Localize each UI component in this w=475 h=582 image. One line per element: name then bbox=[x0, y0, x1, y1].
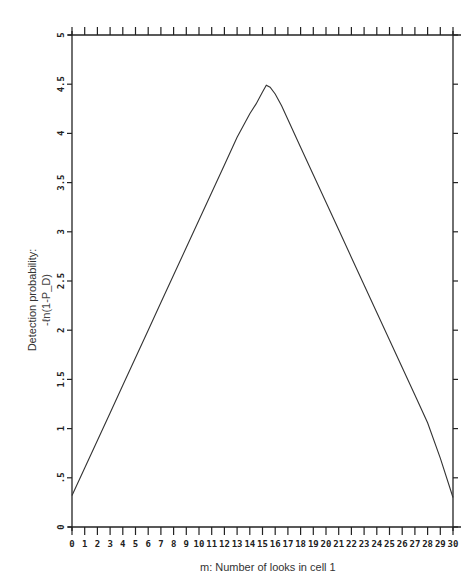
x-tick-label: 4 bbox=[120, 539, 126, 549]
y-tick-label: 3.5 bbox=[56, 174, 66, 190]
x-tick-label: 18 bbox=[295, 539, 306, 549]
y-tick-label: 1 bbox=[56, 426, 66, 431]
x-tick-label: 26 bbox=[397, 539, 408, 549]
y-axis-title: Detection probability: -ℓn(1-P_D) bbox=[26, 249, 52, 352]
x-tick-label: 29 bbox=[435, 539, 446, 549]
x-tick-label: 7 bbox=[158, 539, 163, 549]
x-tick-label: 24 bbox=[371, 539, 382, 549]
x-tick-label: 9 bbox=[184, 539, 189, 549]
y-tick-label: 3 bbox=[56, 229, 66, 234]
line-chart: 0.511.522.533.544.55 0123456789101112131… bbox=[0, 0, 475, 582]
x-tick-label: 13 bbox=[232, 539, 243, 549]
x-tick-label: 8 bbox=[171, 539, 176, 549]
y-tick-label: 1.5 bbox=[56, 371, 66, 387]
x-axis-ticks: 0123456789101112131415161718192021222324… bbox=[69, 27, 458, 549]
x-tick-label: 23 bbox=[359, 539, 370, 549]
data-line bbox=[72, 85, 453, 497]
x-tick-label: 19 bbox=[308, 539, 319, 549]
x-axis-title: m: Number of looks in cell 1 bbox=[200, 561, 336, 573]
y-tick-label: 4.5 bbox=[56, 76, 66, 92]
x-tick-label: 10 bbox=[194, 539, 205, 549]
x-tick-label: 0 bbox=[69, 539, 74, 549]
x-tick-label: 17 bbox=[282, 539, 293, 549]
y-tick-label: 2.5 bbox=[56, 273, 66, 289]
x-tick-label: 14 bbox=[244, 539, 255, 549]
x-tick-label: 3 bbox=[107, 539, 112, 549]
x-tick-label: 11 bbox=[206, 539, 217, 549]
x-tick-label: 22 bbox=[346, 539, 357, 549]
y-tick-label: 0 bbox=[56, 524, 66, 529]
axes bbox=[68, 31, 461, 531]
x-tick-label: 6 bbox=[145, 539, 150, 549]
x-tick-label: 16 bbox=[270, 539, 281, 549]
y-axis-title-line1: Detection probability: bbox=[26, 249, 38, 352]
x-tick-label: 28 bbox=[422, 539, 433, 549]
y-tick-label: 4 bbox=[56, 130, 66, 136]
x-tick-label: 27 bbox=[409, 539, 420, 549]
x-tick-label: 21 bbox=[333, 539, 344, 549]
y-tick-label: 2 bbox=[56, 327, 66, 332]
y-tick-label: .5 bbox=[56, 472, 66, 483]
x-tick-label: 12 bbox=[219, 539, 230, 549]
x-tick-label: 15 bbox=[257, 539, 268, 549]
x-tick-label: 30 bbox=[448, 539, 459, 549]
y-axis-title-line2: -ℓn(1-P_D) bbox=[40, 274, 52, 326]
y-axis-ticks: 0.511.522.533.544.55 bbox=[56, 32, 458, 529]
x-tick-label: 2 bbox=[95, 539, 100, 549]
x-tick-label: 1 bbox=[82, 539, 87, 549]
x-tick-label: 5 bbox=[133, 539, 138, 549]
x-tick-label: 20 bbox=[321, 539, 332, 549]
x-tick-label: 25 bbox=[384, 539, 395, 549]
y-tick-label: 5 bbox=[56, 32, 66, 37]
